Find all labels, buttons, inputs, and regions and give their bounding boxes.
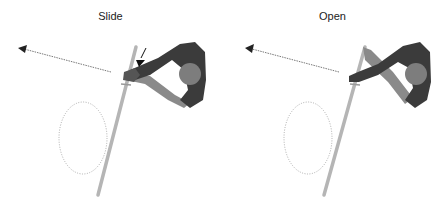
head — [405, 63, 427, 85]
open-diagram — [223, 0, 446, 207]
pole-guard — [121, 84, 131, 85]
pole-guard — [350, 84, 360, 85]
rotation-ellipse — [59, 102, 107, 174]
open-panel: Open — [223, 0, 446, 207]
direction-arrowhead-icon — [245, 44, 254, 53]
direction-arrow-line — [252, 49, 339, 72]
pole — [98, 47, 136, 195]
head — [179, 63, 201, 85]
slide-panel: Slide — [0, 0, 223, 207]
indicator-arrow-line — [141, 48, 146, 58]
direction-arrowhead-icon — [18, 45, 27, 53]
slide-diagram — [0, 0, 223, 207]
rotation-ellipse — [284, 102, 332, 174]
pole — [324, 47, 365, 195]
direction-arrow-line — [24, 49, 111, 72]
